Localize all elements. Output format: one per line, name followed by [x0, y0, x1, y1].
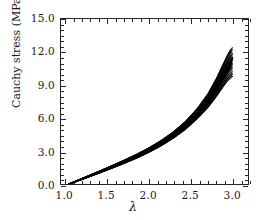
- stress-stretch-curve: [68, 66, 231, 184]
- tick-mark: [61, 169, 64, 170]
- stress-stretch-curve: [70, 73, 233, 184]
- stress-stretch-curve: [69, 59, 232, 184]
- tick-mark: [132, 19, 133, 22]
- tick-mark: [124, 19, 125, 22]
- tick-mark: [99, 181, 100, 184]
- tick-mark: [245, 58, 248, 59]
- stress-stretch-curve: [70, 58, 233, 184]
- tick-mark: [245, 169, 248, 170]
- tick-mark: [61, 69, 64, 70]
- stress-stretch-curve: [69, 63, 232, 184]
- tick-mark: [245, 69, 248, 70]
- stress-stretch-curve: [69, 71, 232, 184]
- stress-stretch-curve: [69, 48, 232, 184]
- tick-mark: [245, 36, 248, 37]
- tick-mark: [158, 19, 159, 22]
- tick-mark: [61, 136, 64, 137]
- tick-mark: [158, 181, 159, 184]
- tick-mark: [166, 181, 167, 184]
- tick-mark: [166, 19, 167, 22]
- plot-area: [60, 18, 249, 185]
- tick-mark: [61, 130, 64, 131]
- stress-stretch-curve: [69, 61, 232, 184]
- stress-stretch-curve: [70, 67, 233, 184]
- stress-stretch-curve: [69, 77, 232, 184]
- stress-stretch-curve: [68, 68, 231, 184]
- tick-mark: [116, 19, 117, 22]
- tick-mark: [74, 181, 75, 184]
- curve-band-plot: [61, 19, 248, 184]
- tick-mark: [245, 158, 248, 159]
- stress-stretch-curve: [69, 69, 232, 185]
- tick-mark: [132, 181, 133, 184]
- tick-mark: [61, 25, 64, 26]
- tick-mark: [61, 30, 64, 31]
- y-tick-label: 9.0: [18, 79, 55, 91]
- y-tick-label: 12.0: [18, 45, 55, 57]
- stress-stretch-curve: [70, 47, 233, 184]
- stress-stretch-curve: [70, 57, 233, 184]
- tick-mark: [243, 19, 248, 20]
- stress-stretch-curve: [69, 55, 232, 184]
- stress-stretch-curve: [70, 74, 233, 184]
- tick-mark: [242, 181, 243, 184]
- tick-mark: [61, 164, 64, 165]
- tick-mark: [243, 153, 248, 154]
- tick-mark: [250, 181, 251, 184]
- stress-stretch-curve: [70, 60, 233, 184]
- stress-stretch-curve: [69, 50, 232, 184]
- tick-mark: [245, 103, 248, 104]
- stress-stretch-curve: [70, 74, 233, 184]
- stress-stretch-curve: [70, 55, 233, 184]
- stress-stretch-curve: [69, 57, 232, 184]
- tick-mark: [183, 19, 184, 22]
- tick-mark: [61, 125, 64, 126]
- stress-stretch-curve: [69, 67, 232, 184]
- tick-mark: [61, 180, 64, 181]
- tick-mark: [245, 147, 248, 148]
- stress-stretch-curve: [69, 50, 232, 184]
- tick-mark: [61, 186, 66, 187]
- tick-mark: [245, 25, 248, 26]
- tick-mark: [61, 47, 64, 48]
- tick-mark: [99, 19, 100, 22]
- tick-mark: [245, 114, 248, 115]
- stress-stretch-curve: [70, 49, 233, 184]
- tick-mark: [200, 181, 201, 184]
- tick-mark: [61, 58, 64, 59]
- stress-stretch-curve: [70, 69, 233, 184]
- tick-mark: [191, 179, 192, 184]
- tick-mark: [245, 130, 248, 131]
- y-tick-label: 0.0: [18, 179, 55, 191]
- tick-mark: [174, 181, 175, 184]
- y-axis-title: Cauchy stress (MPa): [10, 0, 23, 131]
- stress-stretch-curve: [69, 53, 232, 184]
- stress-stretch-curve: [69, 52, 232, 184]
- stress-stretch-curve: [69, 59, 232, 184]
- tick-mark: [61, 19, 66, 20]
- tick-mark: [107, 179, 108, 184]
- tick-mark: [200, 19, 201, 22]
- tick-mark: [245, 136, 248, 137]
- stress-stretch-curve: [70, 58, 233, 184]
- stress-stretch-curve: [70, 59, 233, 184]
- tick-mark: [107, 19, 108, 24]
- stress-stretch-curve: [70, 53, 233, 184]
- stress-stretch-curve: [70, 64, 233, 184]
- tick-mark: [245, 80, 248, 81]
- y-tick-label: 15.0: [18, 12, 55, 24]
- tick-mark: [61, 86, 66, 87]
- tick-mark: [245, 180, 248, 181]
- tick-mark: [191, 19, 192, 24]
- stress-stretch-curve: [70, 65, 233, 184]
- stress-stretch-curve: [69, 66, 232, 184]
- tick-mark: [245, 108, 248, 109]
- tick-mark: [65, 179, 66, 184]
- stress-stretch-curve: [70, 63, 233, 184]
- stress-stretch-curve: [69, 65, 232, 184]
- tick-mark: [61, 36, 64, 37]
- tick-mark: [245, 41, 248, 42]
- stress-stretch-curve: [69, 55, 232, 184]
- tick-mark: [61, 147, 64, 148]
- stress-stretch-curve: [69, 72, 232, 184]
